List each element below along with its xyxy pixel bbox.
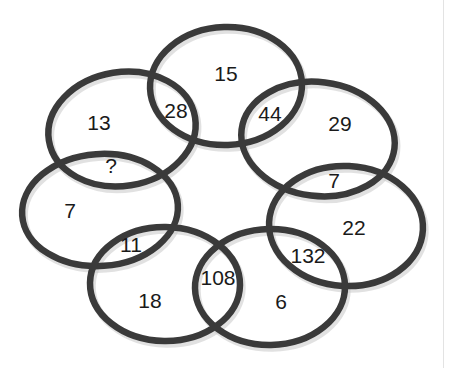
label-right-center: 22 bbox=[342, 216, 365, 239]
ellipse-upper-left bbox=[40, 61, 204, 197]
label-unknown-question: ? bbox=[105, 154, 117, 177]
label-left-center: 7 bbox=[64, 199, 76, 222]
right-edge-rule bbox=[443, 0, 444, 368]
ellipse-diagram-canvas: 15 28 44 13 ? 29 7 7 11 22 132 18 108 6 bbox=[0, 0, 449, 368]
label-top-right-overlap: 44 bbox=[258, 102, 282, 125]
label-lower-right-center: 6 bbox=[275, 290, 287, 313]
label-upper-right-overlap: 7 bbox=[328, 169, 340, 192]
label-top-center: 15 bbox=[214, 62, 237, 85]
label-top-left-overlap: 28 bbox=[164, 99, 187, 122]
label-upper-left-center: 13 bbox=[87, 111, 110, 134]
label-upper-right-center: 29 bbox=[328, 112, 351, 135]
label-lower-left-center: 18 bbox=[138, 289, 161, 312]
puzzle-diagram: 15 28 44 13 ? 29 7 7 11 22 132 18 108 6 bbox=[0, 0, 449, 368]
label-bottom-overlap: 108 bbox=[200, 266, 235, 289]
label-right-lower-overlap: 132 bbox=[290, 244, 325, 267]
label-left-lower-overlap: 11 bbox=[120, 233, 142, 256]
